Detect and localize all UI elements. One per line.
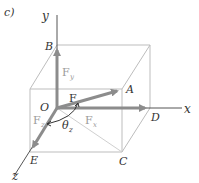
svg-text:y: y — [69, 73, 75, 81]
svg-text:F: F — [33, 114, 41, 127]
point-E: E — [29, 154, 38, 167]
force-components-diagram: c) y x z B A D O E C F F y F z F x θ z — [0, 0, 199, 183]
svg-text:F: F — [85, 114, 93, 127]
vector-F-label: F — [69, 92, 77, 105]
point-C: C — [119, 155, 128, 168]
svg-text:z: z — [68, 126, 73, 134]
svg-text:θ: θ — [62, 119, 69, 132]
vectors — [33, 50, 145, 147]
svg-text:F: F — [62, 66, 70, 79]
vector-Fx-label: F x — [85, 114, 97, 129]
vector-Fz-label: F z — [33, 114, 45, 129]
figure-label: c) — [4, 6, 14, 19]
vector-F — [57, 91, 117, 108]
y-axis-label: y — [41, 9, 49, 23]
svg-text:z: z — [40, 121, 45, 129]
point-D: D — [150, 111, 160, 124]
point-A: A — [125, 83, 134, 96]
x-axis-label: x — [184, 102, 191, 116]
point-B: B — [44, 40, 53, 53]
point-O: O — [40, 101, 49, 114]
z-axis-label: z — [11, 169, 19, 183]
svg-text:x: x — [93, 121, 97, 129]
vector-Fy-label: F y — [62, 66, 75, 81]
angle-label-theta-z: θ z — [62, 119, 73, 134]
